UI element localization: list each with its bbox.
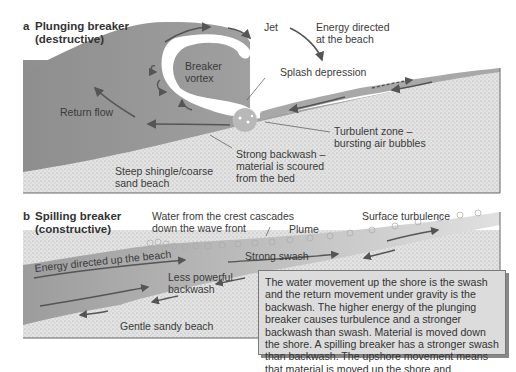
label-splash: Splash depression: [280, 66, 366, 78]
label-vortex-line2: vortex: [185, 72, 214, 84]
panel-a-title-line1: Plunging breaker: [35, 20, 129, 32]
label-return-flow: Return flow: [60, 106, 113, 118]
label-crest-line1: Water from the crest cascades: [152, 210, 294, 222]
label-backwash-line2: material is scoured: [236, 160, 324, 172]
panel-a-title-line2: (destructive): [35, 33, 104, 45]
panel-a-letter: a: [23, 20, 35, 33]
label-less-line1: Less powerful: [168, 271, 233, 283]
panel-b-title: bSpilling breaker (constructive): [23, 210, 121, 236]
label-plume: Plume: [289, 223, 319, 235]
panel-b-letter: b: [23, 210, 35, 223]
label-energy-line2: at the beach: [316, 33, 374, 45]
panel-b-title-line1: Spilling breaker: [35, 210, 121, 222]
label-backwash-line1: Strong backwash –: [236, 148, 325, 160]
explanation-note: The water movement up the shore is the s…: [258, 270, 506, 355]
label-energy-line1: Energy directed: [316, 21, 390, 33]
label-turbulent-line1: Turbulent zone –: [334, 125, 412, 137]
label-turbulent-line2: bursting air bubbles: [334, 137, 426, 149]
label-surface-turbulence: Surface turbulence: [362, 210, 450, 222]
panel-b-title-line2: (constructive): [35, 223, 111, 235]
label-crest-line2: down the wave front: [152, 222, 246, 234]
label-beach-a-line2: sand beach: [115, 177, 169, 189]
label-strong-swash: Strong swash: [245, 250, 309, 262]
panel-a-title: aPlunging breaker (destructive): [23, 20, 129, 46]
label-vortex-line1: Breaker: [185, 60, 222, 72]
label-backwash-line3: from the bed: [236, 172, 295, 184]
label-beach-a-line1: Steep shingle/coarse: [115, 165, 213, 177]
label-beach-b: Gentle sandy beach: [120, 320, 213, 332]
label-jet: Jet: [264, 21, 278, 33]
label-less-line2: backwash: [168, 283, 215, 295]
